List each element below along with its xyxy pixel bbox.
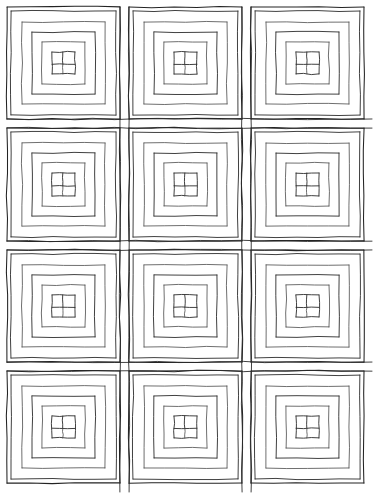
block-r4-c3-ring-4-right xyxy=(329,406,330,448)
block-r3-c2-ring-3-right xyxy=(216,275,217,337)
block-r2-c1-ring-2-top xyxy=(22,142,105,143)
block-r1-c3-ring-5-right xyxy=(319,52,320,74)
block-r1-c3-ring-3-bottom xyxy=(276,94,339,95)
block-r2-c1-ring-3-left xyxy=(32,153,33,216)
block-r4-c3-ring-5-right xyxy=(319,416,320,438)
block-r4-c2-ring-2-left xyxy=(144,386,145,468)
block-r3-c2-ring-4-left xyxy=(164,285,165,327)
block-r1-c2-ring-5-right xyxy=(196,52,197,74)
block-r4-c3-ring-2-top xyxy=(266,386,349,387)
block-r1-c1-outer-frame-top xyxy=(7,6,120,7)
block-r2-c1-ring-2-right xyxy=(105,143,106,226)
block-r2-c3-ring-5-top xyxy=(296,173,319,174)
quilt-pattern-svg xyxy=(0,0,382,503)
block-r3-c3-ring-2-right xyxy=(349,265,350,347)
block-r4-c1-ring-5-left xyxy=(51,416,52,438)
block-r1-c3-ring-5-left xyxy=(296,52,297,74)
block-r3-c2-ring-4-top xyxy=(164,284,207,285)
block-r1-c1-ring-3-right xyxy=(95,32,96,94)
block-r4-c2-center-vertical xyxy=(184,416,185,428)
block-r4-c3-outer-frame-right xyxy=(363,371,364,483)
paper-background xyxy=(0,0,382,503)
block-r4-c2-ring-1-right xyxy=(238,375,239,479)
block-r4-c3-ring-5-left xyxy=(296,416,297,438)
block-r2-c1-ring-2-bottom xyxy=(22,226,105,227)
block-r3-c2-center-horizontal xyxy=(174,307,197,308)
block-r1-c2-ring-3-bottom xyxy=(154,94,217,95)
block-r3-c1-ring-3-top xyxy=(32,275,95,276)
block-r3-c1-ring-5-top xyxy=(52,295,75,296)
block-r2-c1-ring-3-bottom xyxy=(32,216,95,217)
block-r3-c2-ring-5-top xyxy=(174,294,197,295)
block-r3-c1-ring-3-left xyxy=(32,275,33,337)
block-r3-c3-center-vertical-lower xyxy=(306,307,307,317)
drawing-canvas: Log Cabin Quilt Pattern line-drawing han… xyxy=(0,0,382,503)
block-r4-c3-ring-5-bottom xyxy=(296,438,319,439)
block-r2-c1-center-horizontal xyxy=(52,186,75,187)
block-r3-c3-ring-5-bottom xyxy=(296,317,319,318)
block-r1-c1-ring-5-bottom xyxy=(52,73,75,74)
block-r1-c3-ring-1-bottom xyxy=(255,115,360,116)
block-r4-c2-ring-2-right xyxy=(227,386,228,468)
block-r4-c2-ring-5-top xyxy=(174,415,197,416)
block-r3-c1-ring-3-right xyxy=(94,275,95,337)
block-r4-c2-ring-5-bottom xyxy=(174,438,197,439)
block-r3-c3-ring-3-left xyxy=(276,275,277,337)
block-r4-c3-ring-1-right xyxy=(360,375,361,479)
block-r3-c1-ring-3-bottom xyxy=(32,337,95,338)
block-r4-c2-ring-3-right xyxy=(217,396,218,458)
block-r2-c3-outer-frame-right xyxy=(363,128,364,241)
block-r4-c3-ring-2-bottom xyxy=(266,468,349,469)
block-r3-c2-center-vertical xyxy=(185,295,186,307)
block-r1-c1-ring-4-left xyxy=(41,42,42,84)
block-r1-c3-outer-frame-top xyxy=(251,7,364,8)
block-r3-c2-ring-3-left xyxy=(153,275,154,337)
block-r4-c3-outer-frame-bottom xyxy=(251,483,364,484)
block-r2-c2-ring-1-left xyxy=(133,132,134,237)
block-r1-c1-ring-1-bottom xyxy=(11,115,116,116)
block-r1-c2-center-vertical-lower xyxy=(185,64,186,74)
block-r4-c3-ring-3-bottom xyxy=(276,458,339,459)
block-r3-c2-center-vertical-lower xyxy=(184,307,185,317)
block-r1-c1-ring-4-top xyxy=(42,42,85,43)
block-r3-c3-ring-3-right xyxy=(339,275,340,337)
block-r1-c1-ring-3-left xyxy=(32,32,33,94)
block-r3-c3-ring-3-top xyxy=(276,275,339,276)
